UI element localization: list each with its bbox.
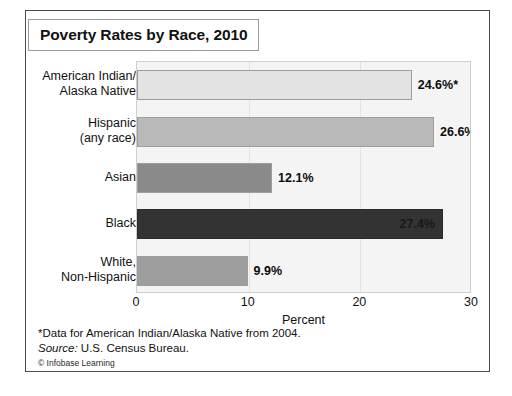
category-axis: American Indian/Alaska NativeHispanic(an… xyxy=(26,61,136,293)
bar-value-label: 9.9% xyxy=(254,264,283,278)
category-label: Hispanic(any race) xyxy=(26,116,136,146)
chart-figure: Poverty Rates by Race, 2010 American Ind… xyxy=(25,10,490,372)
footnote-asterisk: *Data for American Indian/Alaska Native … xyxy=(38,326,478,341)
credit-line: © Infobase Learning xyxy=(38,358,478,369)
bar xyxy=(137,163,272,193)
bar-value-label: 27.4% xyxy=(400,217,435,231)
category-label: Black xyxy=(26,216,136,231)
category-label-line: Hispanic xyxy=(26,116,136,131)
chart-title: Poverty Rates by Race, 2010 xyxy=(40,26,248,44)
x-tick-label: 30 xyxy=(464,295,478,309)
category-label: American Indian/Alaska Native xyxy=(26,69,136,99)
value-axis: 0102030 xyxy=(136,293,471,315)
footnotes: *Data for American Indian/Alaska Native … xyxy=(38,326,478,369)
x-tick-label: 10 xyxy=(241,295,255,309)
bar xyxy=(137,256,248,286)
bar xyxy=(137,209,443,239)
source-value: U.S. Census Bureau. xyxy=(81,342,189,354)
category-label-line: White, xyxy=(26,255,136,270)
bar xyxy=(137,70,412,100)
chart-title-box: Poverty Rates by Race, 2010 xyxy=(28,19,259,51)
plot-region: American Indian/Alaska NativeHispanic(an… xyxy=(26,61,491,306)
category-label-line: Non-Hispanic xyxy=(26,270,136,285)
plot-area: 24.6%*26.6%12.1%27.4%9.9% xyxy=(136,61,471,293)
category-label-line: Black xyxy=(26,216,136,231)
category-label-line: American Indian/ xyxy=(26,69,136,84)
category-label: Asian xyxy=(26,170,136,185)
bar-value-label: 12.1% xyxy=(278,171,313,185)
bar-value-label: 26.6% xyxy=(440,125,471,139)
bar xyxy=(137,117,434,147)
bar-value-label: 24.6%* xyxy=(418,78,458,92)
source-label: Source: xyxy=(38,342,78,354)
category-label-line: Alaska Native xyxy=(26,84,136,99)
x-tick-label: 20 xyxy=(352,295,366,309)
source-line: Source: U.S. Census Bureau. xyxy=(38,341,478,356)
category-label: White,Non-Hispanic xyxy=(26,255,136,285)
category-label-line: (any race) xyxy=(26,131,136,146)
category-label-line: Asian xyxy=(26,170,136,185)
x-axis-title: Percent xyxy=(136,313,471,327)
x-tick-label: 0 xyxy=(133,295,140,309)
